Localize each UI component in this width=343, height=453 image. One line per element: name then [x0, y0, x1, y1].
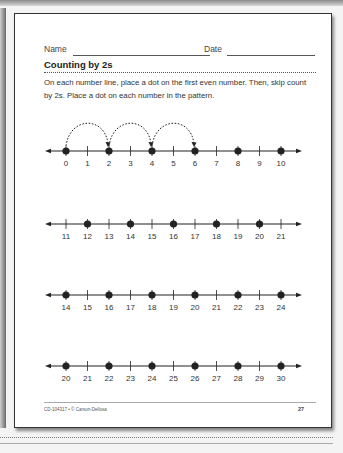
dot-marker [148, 147, 155, 154]
dot-marker [277, 147, 284, 154]
tick-label: 14 [126, 232, 135, 241]
left-arrow-icon [45, 222, 51, 226]
dot-marker [234, 362, 241, 369]
tick-label: 21 [83, 374, 92, 383]
right-arrow-icon [296, 364, 302, 368]
tick-label: 15 [148, 232, 157, 241]
tick-label: 8 [236, 159, 241, 168]
dot-marker [191, 362, 198, 369]
tick-label: 0 [64, 159, 69, 168]
tick-label: 21 [212, 303, 221, 312]
tick-label: 11 [62, 232, 71, 241]
tick-label: 17 [191, 232, 200, 241]
tick-label: 23 [126, 374, 135, 383]
tick-label: 7 [214, 159, 219, 168]
tick-label: 24 [148, 374, 157, 383]
tick-label: 6 [193, 159, 198, 168]
tick-label: 15 [83, 303, 92, 312]
dot-marker [62, 291, 69, 298]
tick-label: 16 [105, 303, 114, 312]
dot-marker [62, 362, 69, 369]
tick-label: 2 [107, 159, 112, 168]
dot-marker [148, 291, 155, 298]
tick-label: 5 [171, 159, 176, 168]
dot-marker [277, 362, 284, 369]
dot-marker [191, 291, 198, 298]
tick-label: 17 [126, 303, 135, 312]
tick-label: 20 [255, 232, 264, 241]
tick-label: 1 [85, 159, 90, 168]
tick-label: 25 [169, 374, 178, 383]
footer-copyright: CD-104317 • © Carson-Dellosa [44, 407, 107, 412]
right-arrow-icon [296, 222, 302, 226]
footer-divider [44, 402, 316, 403]
dot-marker [84, 220, 91, 227]
tick-label: 20 [191, 303, 200, 312]
tick-label: 29 [255, 374, 264, 383]
tick-label: 24 [277, 303, 286, 312]
dot-marker [256, 220, 263, 227]
dot-marker [213, 220, 220, 227]
scan-left-edge [0, 8, 6, 428]
arrowhead-icon [192, 142, 197, 147]
tick-label: 18 [212, 232, 221, 241]
worksheet-page: Name Date Counting by 2s On each number … [14, 13, 332, 428]
tick-label: 23 [255, 303, 264, 312]
tick-label: 16 [169, 232, 178, 241]
page-number: 27 [298, 406, 304, 412]
right-arrow-icon [296, 293, 302, 297]
left-arrow-icon [45, 293, 51, 297]
arrowhead-icon [106, 142, 111, 147]
dot-marker [191, 147, 198, 154]
tick-label: 19 [234, 232, 243, 241]
tick-label: 28 [234, 374, 243, 383]
tick-label: 21 [277, 232, 286, 241]
tick-label: 14 [62, 303, 71, 312]
tick-label: 9 [257, 159, 262, 168]
tick-label: 27 [212, 374, 221, 383]
tick-label: 22 [234, 303, 243, 312]
jump-arc [152, 123, 194, 146]
left-arrow-icon [45, 364, 51, 368]
dot-marker [127, 220, 134, 227]
scan-bottom-dashes [0, 437, 333, 438]
tick-label: 13 [105, 232, 114, 241]
tick-label: 30 [277, 374, 286, 383]
scan-bottom-rule [0, 443, 333, 444]
tick-label: 19 [169, 303, 178, 312]
right-arrow-icon [296, 149, 302, 153]
dot-marker [234, 147, 241, 154]
dot-marker [170, 220, 177, 227]
dot-marker [148, 362, 155, 369]
dot-marker [105, 362, 112, 369]
tick-label: 12 [83, 232, 92, 241]
dot-marker [234, 291, 241, 298]
left-arrow-icon [45, 149, 51, 153]
dot-marker [105, 291, 112, 298]
tick-label: 22 [105, 374, 114, 383]
dot-marker [62, 147, 69, 154]
tick-label: 20 [62, 374, 71, 383]
tick-label: 3 [128, 159, 133, 168]
jump-arc [109, 123, 151, 146]
tick-label: 4 [150, 159, 155, 168]
tick-label: 10 [277, 159, 286, 168]
tick-label: 26 [191, 374, 200, 383]
arrowhead-icon [149, 142, 154, 147]
jump-arc [66, 123, 108, 146]
tick-label: 18 [148, 303, 157, 312]
number-lines: 0123456789101112131415161718192021141516… [15, 14, 331, 427]
scan-top-edge [0, 0, 343, 6]
dot-marker [277, 291, 284, 298]
dot-marker [105, 147, 112, 154]
